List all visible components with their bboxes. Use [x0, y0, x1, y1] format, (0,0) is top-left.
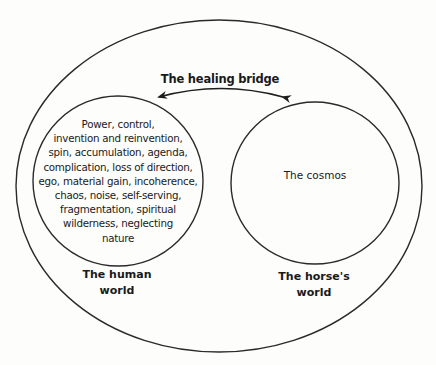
horse-world-label-line2: world: [264, 285, 364, 301]
horse-world-circle: [231, 102, 399, 264]
human-world-label: The human world: [67, 267, 167, 299]
human-world-content: Power, control, invention and reinventio…: [38, 117, 198, 245]
human-content-line: wilderness, neglecting: [38, 216, 198, 230]
human-content-line: complication, loss of direction,: [38, 160, 198, 174]
human-content-line: Power, control,: [38, 117, 198, 131]
diagram-canvas: The healing bridge Power, control, inven…: [0, 0, 436, 365]
horse-world-label: The horse's world: [264, 269, 364, 301]
horse-world-content: The cosmos: [255, 169, 375, 181]
human-content-line: fragmentation, spiritual: [38, 202, 198, 216]
human-content-line: nature: [38, 231, 198, 245]
horse-world-label-line1: The horse's: [264, 269, 364, 285]
human-content-line: ego, material gain, incoherence,: [38, 174, 198, 188]
healing-bridge-arrow-icon: [159, 89, 283, 98]
human-content-line: chaos, noise, self-serving,: [38, 188, 198, 202]
human-world-label-line2: world: [67, 283, 167, 299]
human-world-label-line1: The human: [67, 267, 167, 283]
human-content-line: invention and reinvention,: [38, 131, 198, 145]
healing-bridge-label: The healing bridge: [150, 72, 290, 86]
human-content-line: spin, accumulation, agenda,: [38, 145, 198, 159]
